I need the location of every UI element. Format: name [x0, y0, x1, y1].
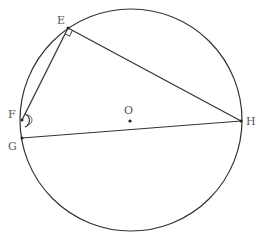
label-F: F [8, 108, 16, 121]
segment-EH [68, 28, 241, 121]
label-E: E [57, 14, 65, 27]
segment-GH [22, 121, 241, 138]
point-F [21, 119, 24, 122]
point-G [21, 137, 24, 140]
label-O: O [124, 104, 133, 117]
segment-EF [22, 28, 68, 120]
point-E [67, 27, 70, 30]
point-O [128, 119, 131, 122]
point-H [240, 120, 243, 123]
geometry-diagram: E F G H O [0, 0, 262, 244]
label-G: G [8, 140, 17, 153]
label-H: H [246, 115, 256, 128]
